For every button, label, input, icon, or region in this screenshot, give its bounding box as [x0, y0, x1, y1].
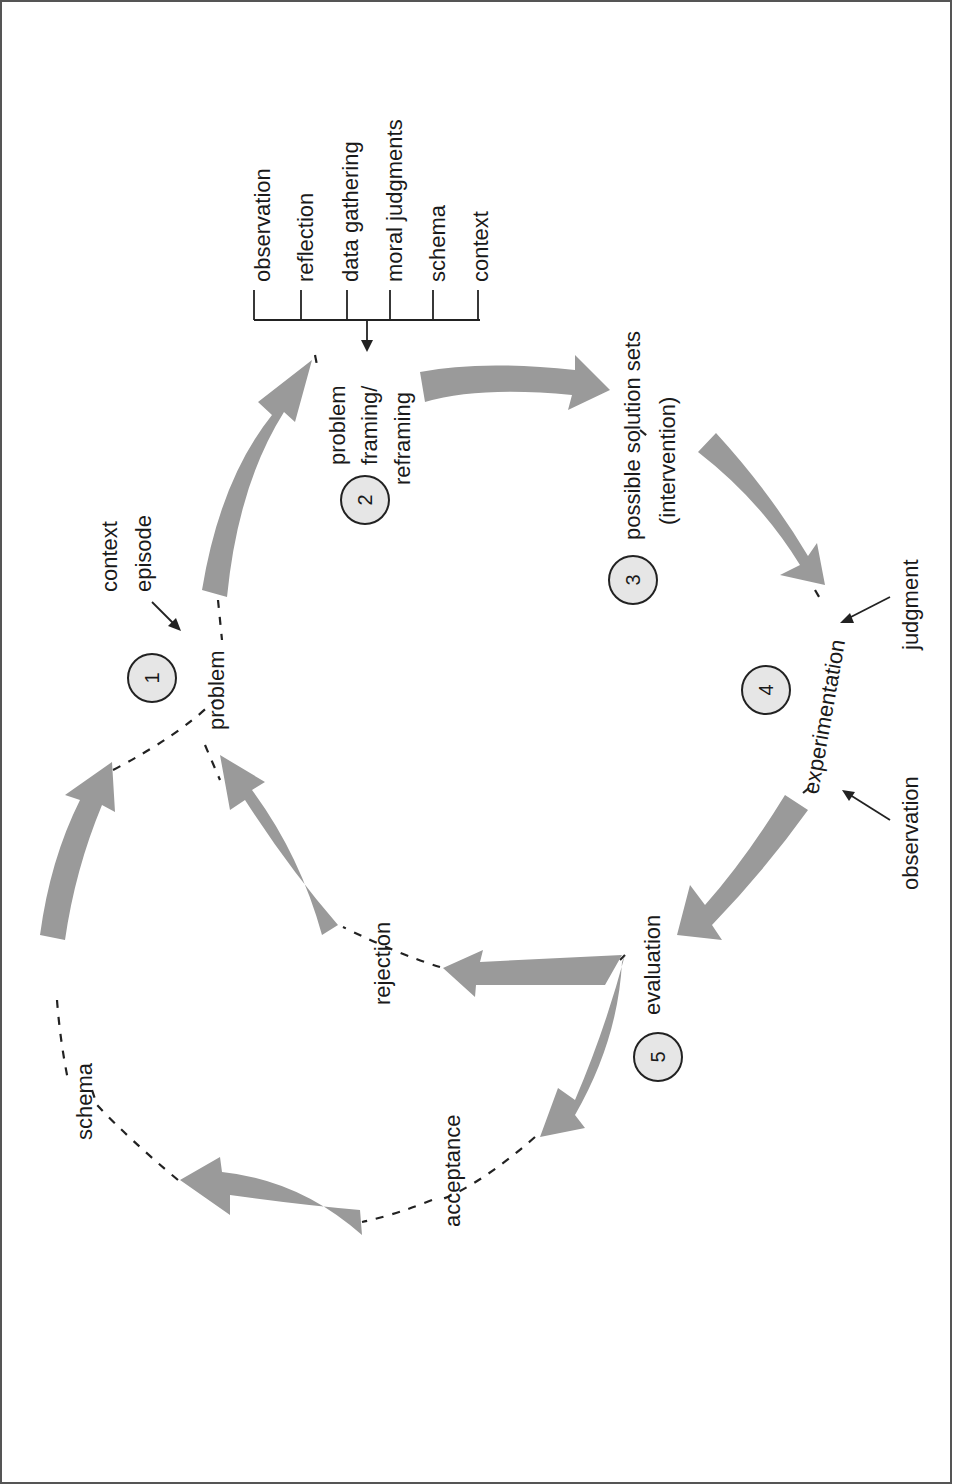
episode-label: episode — [131, 515, 156, 592]
framing-input-observation: observation — [250, 168, 275, 282]
svg-text:2: 2 — [354, 494, 376, 505]
context-episode-arrow — [152, 602, 181, 631]
stage-4-badge: 4 — [742, 666, 790, 714]
stage-3-badge: 3 — [609, 556, 657, 604]
dash-schema-upper — [57, 1000, 68, 1080]
dash-problem-framing — [218, 600, 222, 640]
flow-arrows — [40, 355, 825, 1235]
experimentation-label: experimentation — [798, 637, 850, 796]
observation-label: observation — [898, 776, 923, 890]
arrow-experimentation-to-evaluation — [677, 795, 808, 940]
dashed-connectors — [57, 355, 822, 1222]
cycle-diagram: 1 2 3 4 5 observation reflection data ga… — [0, 0, 960, 1484]
arrow-framing-to-solution — [420, 355, 610, 410]
framing-input-context: context — [468, 211, 493, 282]
arrow-solution-to-experimentation — [698, 433, 825, 585]
judgment-arrow — [840, 597, 890, 623]
diagram-frame: 1 2 3 4 5 observation reflection data ga… — [0, 0, 960, 1484]
arrow-evaluation-to-rejection — [443, 950, 622, 997]
dash-acceptance-b — [362, 1200, 432, 1222]
bracket-arrowhead-icon — [361, 340, 373, 352]
arrow-acceptance-to-schema — [180, 1157, 362, 1235]
dash-rejection-problem-a — [205, 745, 220, 780]
framing-input-data-gathering: data gathering — [338, 141, 363, 282]
context-label: context — [97, 521, 122, 592]
evaluation-label: evaluation — [640, 915, 665, 1015]
framing-line-2: framing/ — [357, 385, 382, 465]
arrow-rejection-to-problem — [220, 755, 338, 935]
judgment-label: judgment — [898, 559, 923, 651]
dash-exp-start — [815, 590, 822, 602]
stage-2-badge: 2 — [341, 476, 389, 524]
problem-label: problem — [204, 651, 229, 730]
solution-line-1: possible solution sets — [620, 331, 645, 540]
dash-schema-problem — [113, 700, 215, 770]
arrow-problem-to-framing — [202, 360, 312, 597]
acceptance-label: acceptance — [440, 1114, 465, 1227]
framing-input-schema: schema — [425, 204, 450, 282]
stage-1-badge: 1 — [128, 654, 176, 702]
svg-text:1: 1 — [141, 672, 163, 683]
framing-line-1: problem — [325, 386, 350, 465]
dash-framing-end — [315, 355, 318, 370]
arrow-schema-to-problem — [40, 762, 115, 940]
observation-arrow — [842, 790, 890, 820]
svg-text:3: 3 — [622, 574, 644, 585]
framing-line-3: reframing — [390, 392, 415, 485]
framing-input-moral-judgments: moral judgments — [382, 119, 407, 282]
rejection-label: rejection — [370, 922, 395, 1005]
framing-input-reflection: reflection — [293, 193, 318, 282]
stage-5-badge: 5 — [634, 1033, 682, 1081]
svg-text:5: 5 — [647, 1051, 669, 1062]
dash-schema-lower — [97, 1105, 178, 1180]
schema-label: schema — [72, 1062, 97, 1140]
input-bracket — [254, 290, 480, 352]
solution-line-2: (intervention) — [655, 397, 680, 525]
svg-text:4: 4 — [755, 684, 777, 695]
